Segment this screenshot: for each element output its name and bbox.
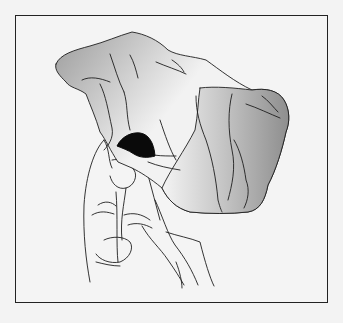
cloth-drawing	[56, 32, 289, 214]
hand-cloth-illustration	[0, 0, 343, 323]
